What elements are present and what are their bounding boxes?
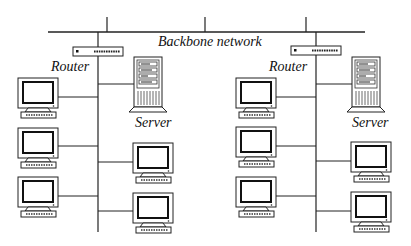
- server-label-left: Server: [135, 115, 172, 131]
- workstation-icon: [18, 128, 58, 168]
- workstation-icon: [133, 143, 173, 183]
- backbone-label: Backbone network: [158, 34, 262, 50]
- workstation-icon: [18, 78, 58, 118]
- workstation-icon: [236, 78, 276, 118]
- router-icon: [73, 47, 123, 56]
- workstation-icon: [133, 193, 173, 233]
- workstation-icon: [236, 177, 276, 217]
- backbone-network: [48, 17, 365, 32]
- workstation-icon: [351, 192, 391, 232]
- router-label-right: Router: [269, 59, 307, 75]
- server-icon: [347, 57, 385, 112]
- workstation-icon: [18, 177, 58, 217]
- workstation-icon: [351, 142, 391, 182]
- router-label-left: Router: [51, 59, 89, 75]
- workstation-icon: [236, 127, 276, 167]
- lan-segment-left: [18, 32, 173, 233]
- lan-segment-right: [236, 32, 391, 232]
- server-icon: [129, 57, 167, 112]
- server-label-right: Server: [352, 115, 389, 131]
- router-icon: [291, 46, 341, 55]
